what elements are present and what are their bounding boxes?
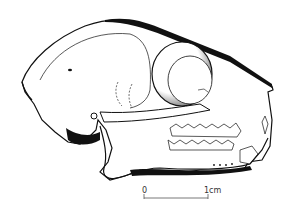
scale-start-label: 0 [142,187,147,195]
cranium [22,19,273,180]
scale-bar [144,194,208,199]
orbit [152,42,212,106]
skull-illustration [0,0,288,213]
scale-end-label: 1cm [204,187,221,195]
